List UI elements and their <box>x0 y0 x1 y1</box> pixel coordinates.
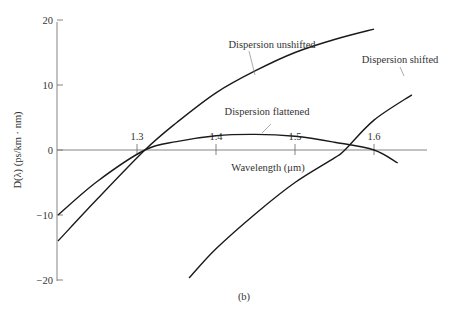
y-tick-label: 20 <box>43 15 54 26</box>
y-tick-label: −20 <box>37 275 53 286</box>
annotation-unshifted-leader <box>249 51 255 75</box>
curve-dispersion-flattened <box>58 134 398 215</box>
annotation-shifted: Dispersion shifted <box>362 54 439 65</box>
annotation-flattened-leader <box>262 124 271 133</box>
x-axis-label: Wavelength (μm) <box>231 162 305 174</box>
y-tick-label: 0 <box>48 145 53 156</box>
annotation-flattened: Dispersion flattened <box>225 106 311 117</box>
curves <box>58 29 412 278</box>
y-ticks: 20100−10−20 <box>37 15 63 286</box>
annotation-shifted-leader <box>400 67 404 76</box>
x-tick-label: 1.6 <box>367 131 380 142</box>
dispersion-chart: 20100−10−20 1.31.41.51.6 Wavelength (μm)… <box>0 0 457 312</box>
chart-caption: (b) <box>238 291 251 303</box>
y-tick-label: 10 <box>43 80 54 91</box>
x-tick-label: 1.3 <box>130 131 143 142</box>
annotation-unshifted: Dispersion unshifted <box>228 39 316 50</box>
y-tick-label: −10 <box>37 210 53 221</box>
y-axis-label: D(λ) (ps/km · nm) <box>12 111 24 189</box>
curve-dispersion-shifted <box>189 95 412 278</box>
